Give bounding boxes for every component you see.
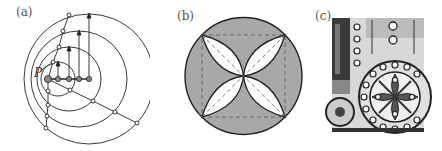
panel-a: (a) <box>0 0 150 151</box>
rosette-circle-diagram <box>150 0 310 151</box>
panel-b: (b) <box>150 0 310 151</box>
panel-c: (c) <box>310 0 442 151</box>
nested-circles-diagram <box>0 0 150 151</box>
point-p-label: P <box>34 66 42 80</box>
tile-photo <box>310 0 442 151</box>
